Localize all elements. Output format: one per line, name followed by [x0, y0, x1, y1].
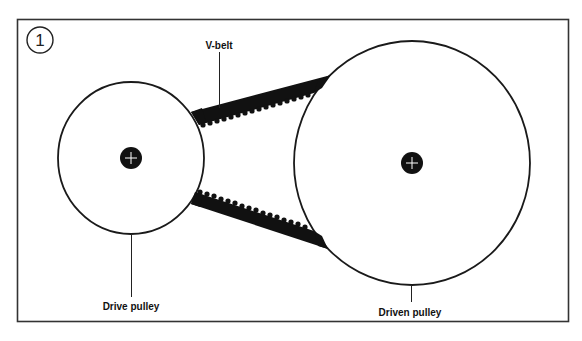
pulley-diagram: 1: [0, 0, 582, 341]
figure-number: 1: [35, 31, 44, 50]
driven-pulley: [294, 41, 530, 285]
drive-pulley-hub-icon: [120, 147, 142, 169]
driven-pulley-label: Driven pulley: [379, 307, 442, 318]
driven-pulley-hub-icon: [401, 152, 423, 174]
v-belt-label: V-belt: [205, 40, 233, 51]
drive-pulley-label: Drive pulley: [103, 301, 160, 312]
drive-pulley: [58, 82, 204, 234]
